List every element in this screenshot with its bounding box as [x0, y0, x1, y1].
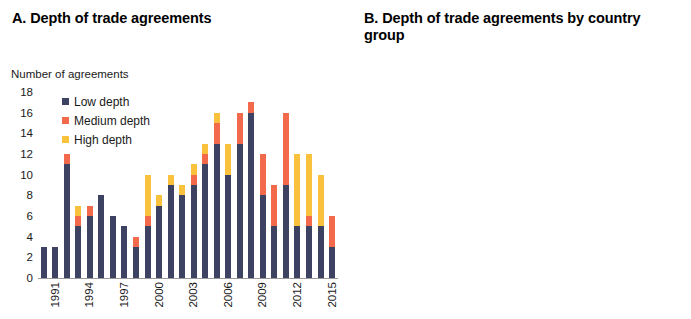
panel-a-bar-stack	[283, 113, 289, 278]
panel-a-bar-stack	[271, 185, 277, 278]
panel-a-segment-high	[225, 144, 231, 175]
panel-a-segment-medium	[306, 216, 312, 226]
panel-a-bar-stack	[52, 247, 58, 278]
panel-a-segment-high	[202, 144, 208, 154]
panel-a-bar-stack	[121, 226, 127, 278]
legend-label-low: Low depth	[74, 95, 129, 109]
panel-a-segment-medium	[133, 237, 139, 247]
panel-a-bar	[38, 92, 50, 278]
panel-a-bar-stack	[248, 102, 254, 278]
panel-a-segment-low	[271, 226, 277, 278]
panel-a-segment-low	[248, 113, 254, 278]
panel-a-x-tick: 2003	[187, 282, 199, 308]
panel-a-x-tick-labels: 199119941997200020032006200920122015	[38, 280, 338, 319]
panel-a-bar-stack	[306, 154, 312, 278]
panel-a-y-tick: 16	[20, 107, 33, 119]
panel-a-segment-high	[168, 175, 174, 185]
panel-a-segment-low	[98, 195, 104, 278]
panel-a-segment-medium	[329, 216, 335, 247]
panel-a-x-tick: 2006	[222, 282, 234, 308]
panel-a-segment-low	[225, 175, 231, 278]
panel-a-segment-medium	[202, 154, 208, 164]
panel-a-segment-medium	[214, 123, 220, 144]
panel-a-segment-low	[179, 195, 185, 278]
panel-a-segment-low	[64, 164, 70, 278]
panel-a-y-tick: 10	[20, 169, 33, 181]
panel-a-segment-high	[191, 164, 197, 174]
panel-a-bar	[280, 92, 292, 278]
panel-b: B. Depth of trade agreements by country …	[345, 0, 691, 319]
panel-a-bar	[211, 92, 223, 278]
panel-a-segment-low	[294, 226, 300, 278]
panel-a-bar	[176, 92, 188, 278]
panel-a-segment-low	[133, 247, 139, 278]
panel-a-segment-low	[214, 144, 220, 278]
panel-a-bar-stack	[294, 154, 300, 278]
panel-a-bar-stack	[75, 206, 81, 278]
panel-a-y-tick: 0	[27, 272, 33, 284]
panel-a-segment-medium	[237, 113, 243, 144]
panel-a: A. Depth of trade agreements Number of a…	[0, 0, 345, 319]
panel-b-title: B. Depth of trade agreements by country …	[364, 10, 684, 44]
panel-a-bar-stack	[214, 113, 220, 278]
panel-a-bar-stack	[318, 175, 324, 278]
panel-a-segment-low	[121, 226, 127, 278]
panel-a-bar-stack	[64, 154, 70, 278]
panel-a-x-tick: 2000	[153, 282, 165, 308]
panel-a-bar-stack	[133, 237, 139, 278]
panel-a-bar	[153, 92, 165, 278]
figure-container: A. Depth of trade agreements Number of a…	[0, 0, 691, 319]
panel-a-segment-high	[156, 195, 162, 205]
panel-a-bar-stack	[179, 185, 185, 278]
legend-item-high: High depth	[62, 130, 150, 149]
panel-a-segment-medium	[248, 102, 254, 112]
panel-a-x-tick: 1997	[118, 282, 130, 308]
panel-a-segment-low	[168, 185, 174, 278]
panel-a-bar	[223, 92, 235, 278]
panel-a-bar-stack	[168, 175, 174, 278]
panel-a-segment-medium	[271, 185, 277, 226]
panel-a-segment-medium	[75, 216, 81, 226]
panel-a-x-tick: 1994	[83, 282, 95, 308]
panel-a-bar-stack	[145, 175, 151, 278]
panel-a-segment-low	[52, 247, 58, 278]
panel-a-bar	[315, 92, 327, 278]
panel-a-segment-medium	[64, 154, 70, 164]
panel-a-segment-low	[41, 247, 47, 278]
panel-a-y-tick: 14	[20, 127, 33, 139]
panel-a-y-tick: 2	[27, 251, 33, 263]
panel-a-segment-low	[202, 164, 208, 278]
panel-a-segment-high	[214, 113, 220, 123]
panel-a-y-tick: 18	[20, 86, 33, 98]
panel-a-bar-stack	[87, 206, 93, 278]
panel-a-segment-high	[145, 175, 151, 216]
panel-a-bar	[246, 92, 258, 278]
panel-a-bar	[165, 92, 177, 278]
panel-a-bar-stack	[260, 154, 266, 278]
panel-a-bar-stack	[237, 113, 243, 278]
legend-swatch-low-icon	[62, 98, 69, 105]
panel-a-x-tick: 1991	[49, 282, 61, 308]
legend-item-medium: Medium depth	[62, 111, 150, 130]
panel-a-x-tick: 2012	[291, 282, 303, 308]
panel-a-title: A. Depth of trade agreements	[12, 10, 332, 27]
panel-a-segment-low	[306, 226, 312, 278]
panel-a-x-tick: 2015	[326, 282, 338, 308]
legend-item-low: Low depth	[62, 92, 150, 111]
panel-a-bar	[269, 92, 281, 278]
panel-a-segment-low	[145, 226, 151, 278]
panel-a-segment-medium	[260, 154, 266, 195]
panel-a-segment-low	[283, 185, 289, 278]
panel-a-bar	[234, 92, 246, 278]
panel-a-bar-stack	[191, 164, 197, 278]
panel-a-bar-stack	[329, 216, 335, 278]
panel-a-bar-stack	[41, 247, 47, 278]
panel-a-bar	[257, 92, 269, 278]
legend-label-medium: Medium depth	[74, 114, 150, 128]
panel-a-y-tick: 6	[27, 210, 33, 222]
legend-swatch-high-icon	[62, 136, 69, 143]
panel-a-segment-low	[329, 247, 335, 278]
panel-a-bar	[326, 92, 338, 278]
panel-a-segment-low	[237, 144, 243, 278]
panel-a-bar-stack	[202, 144, 208, 278]
